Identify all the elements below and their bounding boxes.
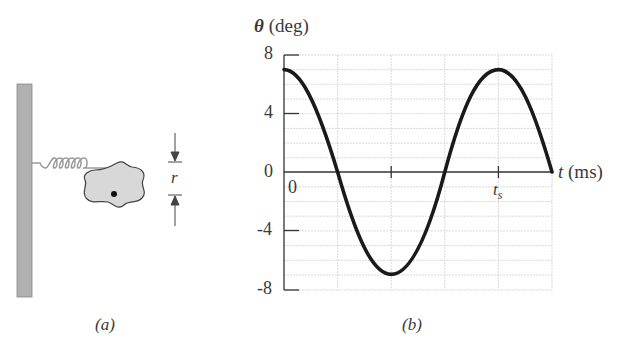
caption-a-text: (a) bbox=[95, 315, 115, 334]
figure-a bbox=[17, 84, 182, 297]
ts-subscript: s bbox=[498, 188, 503, 202]
x-axis-unit: (ms) bbox=[568, 161, 603, 182]
caption-b-text: (b) bbox=[402, 315, 422, 334]
y-axis-unit: (deg) bbox=[269, 15, 309, 36]
y-tick-8: 8 bbox=[264, 43, 273, 64]
spring bbox=[32, 158, 108, 168]
figure-canvas bbox=[0, 0, 630, 351]
x-axis-label: t (ms) bbox=[558, 161, 603, 183]
theta-symbol: θ bbox=[254, 15, 264, 36]
x-origin-label: 0 bbox=[288, 177, 297, 198]
figure-b-chart bbox=[284, 55, 552, 290]
pivot-dot bbox=[111, 191, 117, 197]
caption-a: (a) bbox=[95, 315, 115, 335]
caption-b: (b) bbox=[402, 315, 422, 335]
axes bbox=[284, 55, 552, 290]
wall bbox=[17, 84, 32, 297]
y-tick-4: 4 bbox=[264, 102, 273, 123]
x-marker-ts: ts bbox=[493, 180, 502, 203]
y-tick-neg8: -8 bbox=[257, 278, 272, 299]
t-symbol: t bbox=[558, 161, 563, 182]
y-tick-0: 0 bbox=[264, 161, 273, 182]
dimension-r-label: r bbox=[171, 168, 178, 188]
y-axis-label: θ (deg) bbox=[254, 15, 309, 37]
y-tick-neg4: -4 bbox=[257, 219, 272, 240]
